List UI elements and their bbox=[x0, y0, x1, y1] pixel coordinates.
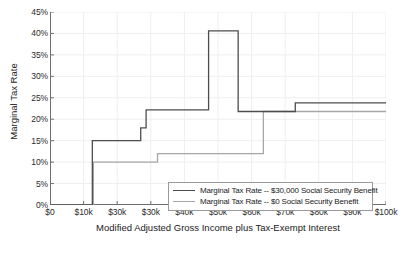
y-tick-label: 0% bbox=[4, 200, 48, 210]
chart-legend: Marginal Tax Rate -- $30,000 Social Secu… bbox=[168, 182, 373, 211]
legend-line-swatch bbox=[173, 190, 195, 191]
x-tick-label: $30k bbox=[142, 207, 160, 217]
x-tick-label: $0 bbox=[45, 207, 54, 217]
chart-figure: 0%5%10%15%20%25%30%35%40%45% $0$10k$30k$… bbox=[0, 0, 402, 253]
x-axis-title: Modified Adjusted Gross Income plus Tax-… bbox=[50, 222, 386, 233]
x-tick-label: $10k bbox=[75, 207, 93, 217]
plot-area bbox=[50, 12, 386, 205]
x-tick-label: $30k bbox=[108, 207, 126, 217]
x-tick-label: $100k bbox=[375, 207, 398, 217]
legend-item: Marginal Tax Rate -- $30,000 Social Secu… bbox=[173, 185, 368, 196]
legend-label: Marginal Tax Rate -- $0 Social Security … bbox=[200, 197, 358, 206]
legend-line-swatch bbox=[173, 201, 195, 202]
legend-label: Marginal Tax Rate -- $30,000 Social Secu… bbox=[200, 186, 377, 195]
legend-item: Marginal Tax Rate -- $0 Social Security … bbox=[173, 196, 368, 207]
y-tick-label: 45% bbox=[4, 7, 48, 17]
y-tick-label: 5% bbox=[4, 179, 48, 189]
y-axis-title: Marginal Tax Rate bbox=[8, 27, 19, 177]
plot-svg bbox=[50, 12, 386, 205]
